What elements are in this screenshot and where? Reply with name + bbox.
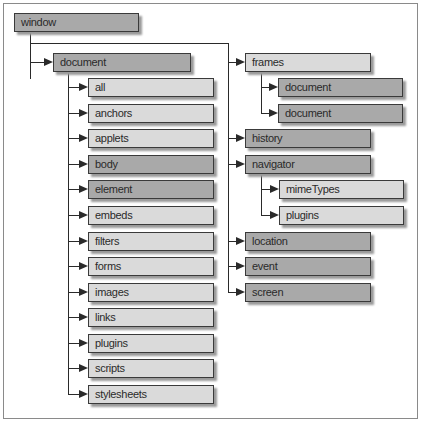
connector-line [68, 164, 79, 165]
node-label: applets [95, 132, 128, 144]
arrow-icon [269, 83, 278, 91]
connector-line [261, 189, 270, 190]
connector-line [228, 241, 236, 242]
node-label: history [252, 132, 282, 144]
node-navigator-plugins: plugins [279, 206, 404, 225]
node-label: window [21, 16, 56, 28]
connector-line [30, 62, 44, 63]
connector-line [68, 241, 79, 242]
connector-line [68, 292, 79, 293]
arrow-icon [236, 262, 245, 270]
connector-line [68, 87, 79, 88]
arrow-icon [79, 160, 88, 168]
node-label: navigator [252, 158, 295, 170]
connector-line [261, 215, 270, 216]
arrow-icon [79, 364, 88, 372]
connector-line [261, 113, 269, 114]
arrow-icon [79, 288, 88, 296]
connector-line [261, 71, 262, 113]
node-label: plugins [95, 337, 128, 349]
node-label: anchors [95, 107, 132, 119]
node-label: filters [95, 235, 119, 247]
node-all: all [88, 78, 214, 97]
node-images: images [88, 283, 214, 302]
connector-line [228, 138, 236, 139]
node-label: all [95, 81, 105, 93]
node-links: links [88, 308, 214, 327]
connector-line [228, 164, 236, 165]
node-label: body [95, 158, 118, 170]
node-label: element [95, 183, 132, 195]
node-plugins: plugins [88, 334, 214, 353]
connector-line [68, 266, 79, 267]
node-label: forms [95, 260, 121, 272]
node-label: event [252, 260, 277, 272]
connector-line [68, 138, 79, 139]
arrow-icon [79, 185, 88, 193]
node-applets: applets [88, 129, 214, 148]
node-element: element [88, 180, 214, 199]
connector-line [261, 87, 269, 88]
arrow-icon [236, 288, 245, 296]
node-label: embeds [95, 209, 132, 221]
connector-line [68, 215, 79, 216]
arrow-icon [79, 83, 88, 91]
arrow-icon [79, 134, 88, 142]
connector-line [68, 368, 79, 369]
node-scripts: scripts [88, 359, 214, 378]
node-stylesheets: stylesheets [88, 385, 214, 404]
arrow-icon [236, 134, 245, 142]
connector-line [68, 71, 69, 395]
connector-line [228, 43, 229, 293]
node-label: scripts [95, 362, 125, 374]
connector-line [228, 62, 236, 63]
node-screen: screen [245, 283, 371, 302]
arrow-icon [236, 237, 245, 245]
arrow-icon [270, 211, 279, 219]
node-navigator: navigator [245, 155, 371, 174]
connector-line [68, 394, 79, 395]
node-label: document [285, 107, 331, 119]
connector-line [68, 189, 79, 190]
node-document: document [53, 53, 191, 72]
connector-line [68, 113, 79, 114]
node-label: plugins [286, 209, 319, 221]
arrow-icon [269, 109, 278, 117]
node-embeds: embeds [88, 206, 214, 225]
connector-line [228, 266, 236, 267]
arrow-icon [236, 58, 245, 66]
arrow-icon [79, 313, 88, 321]
arrow-icon [44, 58, 53, 66]
connector-line [261, 173, 262, 216]
node-label: screen [252, 286, 283, 298]
connector-line [30, 31, 31, 79]
connector-line [228, 292, 236, 293]
arrow-icon [79, 109, 88, 117]
connector-line [68, 317, 79, 318]
node-frames-document-1: document [278, 78, 403, 97]
node-label: stylesheets [95, 388, 147, 400]
node-anchors: anchors [88, 104, 214, 123]
node-event: event [245, 257, 371, 276]
node-mimetypes: mimeTypes [279, 180, 404, 199]
node-history: history [245, 129, 371, 148]
node-label: location [252, 235, 288, 247]
node-label: mimeTypes [286, 183, 340, 195]
node-forms: forms [88, 257, 214, 276]
arrow-icon [236, 160, 245, 168]
node-label: links [95, 311, 116, 323]
arrow-icon [79, 237, 88, 245]
node-body: body [88, 155, 214, 174]
arrow-icon [270, 185, 279, 193]
arrow-icon [79, 211, 88, 219]
node-window: window [14, 13, 139, 32]
arrow-icon [79, 262, 88, 270]
connector-line [30, 43, 229, 44]
node-location: location [245, 232, 371, 251]
node-filters: filters [88, 232, 214, 251]
node-frames-document-2: document [278, 104, 403, 123]
node-label: document [60, 56, 106, 68]
arrow-icon [79, 390, 88, 398]
arrow-icon [79, 339, 88, 347]
connector-line [68, 343, 79, 344]
